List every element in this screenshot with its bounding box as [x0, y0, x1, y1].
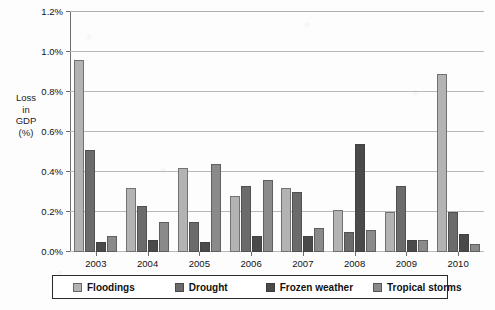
legend-item: Drought	[173, 282, 230, 293]
bar	[178, 168, 188, 252]
chart-legend: Floodings Drought Frozen weather Tropica…	[52, 275, 448, 299]
bar	[470, 244, 480, 252]
bar	[418, 240, 428, 252]
y-axis-tick-label: 0.6%	[41, 126, 63, 137]
bar	[448, 212, 458, 252]
bar	[159, 222, 169, 252]
y-axis-tick-label: 0.0%	[41, 246, 63, 257]
bar	[385, 212, 395, 252]
legend-item-label: Drought	[189, 282, 228, 293]
bar	[292, 192, 302, 252]
bar	[74, 60, 84, 252]
x-axis-tick-label: 2008	[329, 258, 381, 269]
bar	[333, 210, 343, 252]
bar-group: 2007	[277, 12, 329, 252]
bar	[96, 242, 106, 252]
legend-swatch-icon	[266, 283, 275, 292]
x-axis-tick-mark	[251, 252, 252, 256]
x-axis-tick-mark	[96, 252, 97, 256]
x-axis-tick-mark	[406, 252, 407, 256]
bar	[263, 180, 273, 252]
x-axis-tick-mark	[303, 252, 304, 256]
bar	[126, 188, 136, 252]
bar-group: 2005	[174, 12, 226, 252]
y-axis-title-line-2: in	[4, 104, 48, 116]
bar	[281, 188, 291, 252]
legend-item-label: Tropical storms	[387, 282, 461, 293]
bar	[137, 206, 147, 252]
bar	[148, 240, 158, 252]
bar	[407, 240, 417, 252]
bar	[189, 222, 199, 252]
legend-swatch-icon	[175, 283, 184, 292]
legend-item: Frozen weather	[264, 282, 355, 293]
legend-swatch-icon	[73, 283, 82, 292]
y-axis-tick-label: 0.8%	[41, 86, 63, 97]
x-axis-tick-label: 2010	[432, 258, 484, 269]
legend-item-label: Frozen weather	[280, 282, 353, 293]
bar	[241, 186, 251, 252]
bar	[200, 242, 210, 252]
bar-chart: Loss in GDP (%) 0.0%0.2%0.4%0.6%0.8%1.0%…	[0, 0, 495, 310]
bar-group: 2009	[381, 12, 433, 252]
y-axis-tick-label: 0.4%	[41, 166, 63, 177]
bar	[230, 196, 240, 252]
bar-groups: 20032004200520062007200820092010	[70, 12, 484, 252]
legend-item: Tropical storms	[371, 282, 463, 293]
legend-item: Floodings	[71, 282, 137, 293]
bar-group: 2004	[122, 12, 174, 252]
x-axis-tick-label: 2006	[225, 258, 277, 269]
plot-area: 0.0%0.2%0.4%0.6%0.8%1.0%1.2% 20032004200…	[70, 12, 484, 252]
x-axis-tick-mark	[355, 252, 356, 256]
bar	[459, 234, 469, 252]
x-axis-tick-label: 2003	[70, 258, 122, 269]
x-axis-tick-mark	[458, 252, 459, 256]
legend-item-label: Floodings	[87, 282, 135, 293]
bar	[303, 236, 313, 252]
bar	[396, 186, 406, 252]
x-axis-tick-mark	[199, 252, 200, 256]
y-axis-tick-label: 1.2%	[41, 6, 63, 17]
y-axis-tick-label: 1.0%	[41, 46, 63, 57]
x-axis-tick-label: 2009	[381, 258, 433, 269]
bar	[211, 164, 221, 252]
bar	[366, 230, 376, 252]
bar	[355, 144, 365, 252]
bar	[344, 232, 354, 252]
bar-group: 2003	[70, 12, 122, 252]
x-axis-tick-label: 2004	[122, 258, 174, 269]
bar	[314, 228, 324, 252]
bar-group: 2010	[432, 12, 484, 252]
x-axis-tick-mark	[148, 252, 149, 256]
bar	[252, 236, 262, 252]
bar-group: 2008	[329, 12, 381, 252]
bar-group: 2006	[225, 12, 277, 252]
x-axis-tick-label: 2005	[174, 258, 226, 269]
bar	[85, 150, 95, 252]
y-axis-tick-label: 0.2%	[41, 206, 63, 217]
legend-swatch-icon	[373, 283, 382, 292]
x-axis-tick-label: 2007	[277, 258, 329, 269]
bar	[437, 74, 447, 252]
bar	[107, 236, 117, 252]
